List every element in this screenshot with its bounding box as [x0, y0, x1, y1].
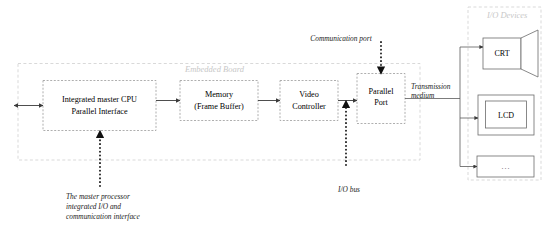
block-integrated-master-cpu [43, 81, 156, 131]
block-label-video-line1: Video [299, 90, 319, 99]
region-label-io-devices: I/O Devices [486, 10, 528, 20]
region-io-devices [468, 7, 541, 180]
device-label-crt: CRT [494, 49, 509, 58]
caption-line3: communication interface [66, 212, 140, 221]
device-label-other: ... [502, 162, 511, 171]
diagram-canvas: Embedded Board I/O Devices Integrated ma… [0, 0, 548, 229]
annotation-transmission-medium-line2: medium [411, 91, 435, 100]
region-label-embedded-board: Embedded Board [184, 64, 245, 74]
block-diagram: Embedded Board I/O Devices Integrated ma… [0, 0, 548, 229]
block-memory-frame-buffer [180, 81, 258, 121]
block-label-memory-line2: (Frame Buffer) [194, 102, 244, 111]
block-video-controller [280, 81, 338, 121]
block-label-video-line2: Controller [292, 102, 326, 111]
annotation-io-bus: I/O bus [337, 185, 360, 194]
block-label-cpu-line1: Integrated master CPU [62, 95, 137, 104]
device-crt-funnel [521, 30, 538, 77]
block-label-memory-line1: Memory [205, 90, 234, 99]
annotation-communication-port: Communication port [310, 34, 372, 43]
caption-line1: The master processor [66, 192, 130, 201]
block-label-parallel-line1: Parallel [368, 87, 394, 96]
block-label-parallel-line2: Port [374, 98, 388, 107]
caption-line2: integrated I/O and [66, 202, 121, 211]
device-label-lcd: LCD [498, 111, 514, 120]
annotation-transmission-medium-line1: Transmission [411, 82, 451, 91]
block-label-cpu-line2: Parallel Interface [71, 107, 128, 116]
